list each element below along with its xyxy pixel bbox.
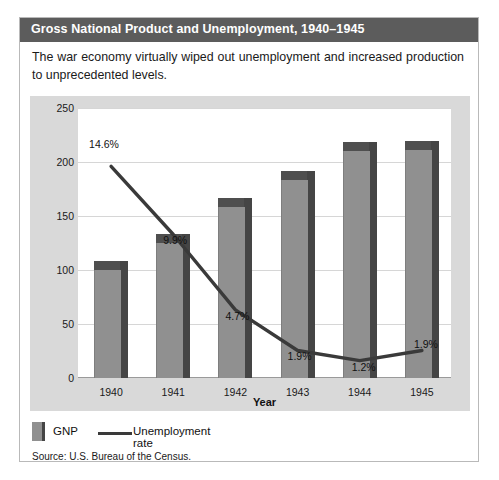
figure-caption: The war economy virtually wiped out unem…	[32, 48, 464, 84]
legend-swatch-gnp	[32, 422, 42, 441]
figure-container: Gross National Product and Unemployment,…	[19, 17, 479, 462]
x-axis-title: Year	[78, 396, 451, 408]
y-tick-label: 50	[34, 318, 74, 330]
unemployment-value-1945: 1.9%	[414, 338, 438, 350]
y-axis-ticks: 250 200 150 100 50 0	[30, 108, 74, 378]
unemployment-value-1941: 9.9%	[163, 234, 187, 246]
legend-label-gnp: GNP	[53, 425, 78, 437]
legend-swatch-unemployment	[98, 432, 132, 435]
unemployment-value-1943: 1.9%	[288, 350, 312, 362]
y-tick-label: 150	[34, 210, 74, 222]
plot-area: 14.6%9.9%4.7%1.9%1.2%1.9% 19401941194219…	[78, 108, 451, 378]
unemployment-value-1944: 1.2%	[352, 361, 376, 373]
y-tick-label: 250	[34, 102, 74, 114]
unemployment-value-1942: 4.7%	[225, 310, 249, 322]
figure-title-bar: Gross National Product and Unemployment,…	[20, 18, 478, 42]
y-tick-label: 0	[34, 372, 74, 384]
source-note: Source: U.S. Bureau of the Census.	[32, 451, 191, 462]
legend-label-unemployment: Unemployment rate	[133, 425, 210, 449]
page-title: Gross National Product and Unemployment,…	[31, 22, 365, 36]
unemployment-value-1940: 14.6%	[89, 138, 119, 150]
figure-page: Gross National Product and Unemployment,…	[0, 0, 499, 480]
unemployment-line-series	[78, 108, 451, 378]
chart-panel: GNP (in billions of dollars) 250 200 150…	[30, 96, 470, 411]
y-tick-label: 100	[34, 264, 74, 276]
y-tick-label: 200	[34, 156, 74, 168]
